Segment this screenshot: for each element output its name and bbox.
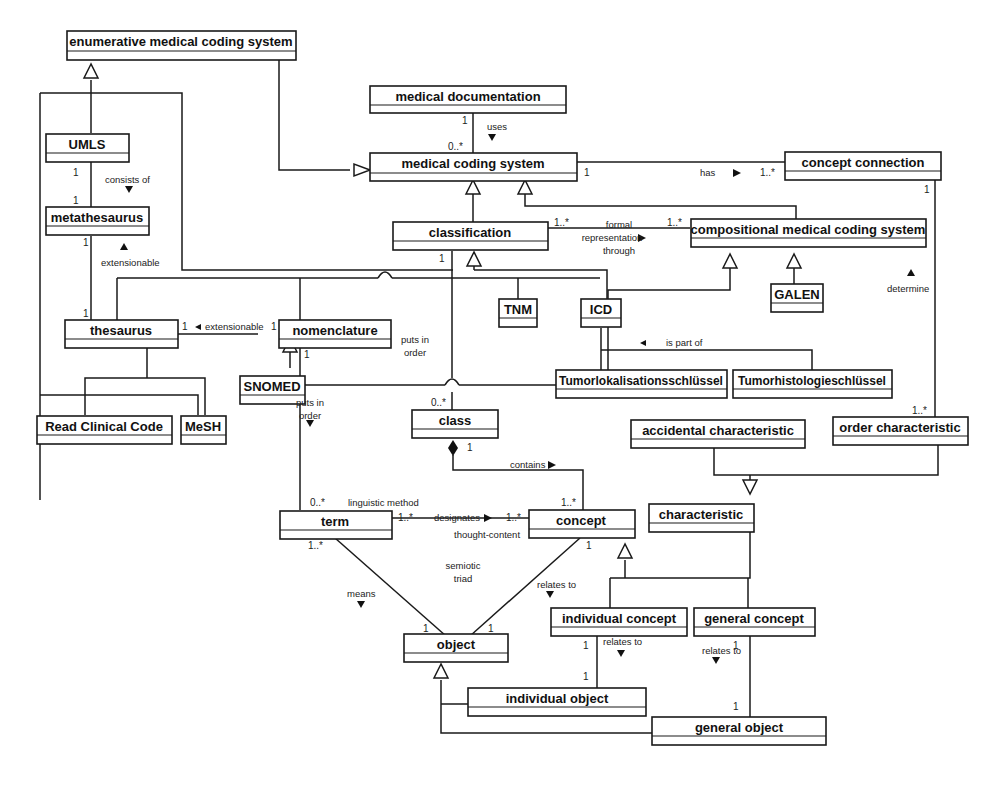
class-metathesaurus[interactable]: metathesaurus	[46, 207, 149, 235]
arrow-relates-ind	[617, 650, 625, 657]
label-contains: contains	[510, 459, 546, 470]
mult: 1..*	[561, 497, 576, 508]
mult: 1..*	[912, 405, 927, 416]
class-name: classification	[429, 225, 511, 240]
mult: 1	[584, 167, 590, 178]
arrow-is-part-of	[640, 340, 646, 346]
arrow-relates-gen	[712, 657, 720, 664]
class-medical-documentation[interactable]: medical documentation	[370, 86, 566, 113]
label-extensionable-meta: extensionable	[101, 257, 160, 268]
mult: 1..*	[667, 217, 682, 228]
edge-read-mesh-to-thesaurus	[85, 345, 205, 415]
class-enumerative[interactable]: enumerative medical coding system	[67, 31, 296, 60]
class-read-clinical-code[interactable]: Read Clinical Code	[37, 416, 172, 444]
class-compositional[interactable]: compositional medical coding system	[691, 219, 926, 247]
gen-arrow-mcs-compositional	[518, 180, 532, 194]
mult: 1..*	[554, 217, 569, 228]
label-extensionable-thes: extensionable	[205, 321, 264, 332]
arrow-has	[733, 169, 741, 177]
mult: 1	[83, 308, 89, 319]
arrow-extensionable-thes	[195, 324, 201, 330]
arrow-extensionable-meta	[120, 243, 128, 250]
class-name: general object	[695, 720, 784, 735]
label-uses: uses	[487, 121, 507, 132]
class-general-concept[interactable]: general concept	[694, 608, 815, 636]
mult: 1	[83, 237, 89, 248]
class-nomenclature[interactable]: nomenclature	[279, 320, 391, 348]
class-characteristic[interactable]: characteristic	[649, 504, 754, 532]
mult: 0..*	[448, 141, 463, 152]
arrow-contains	[548, 461, 556, 469]
class-concept[interactable]: concept	[529, 510, 635, 538]
class-classification[interactable]: classification	[393, 222, 548, 250]
class-name: metathesaurus	[51, 210, 143, 225]
label-representation: representation	[582, 232, 643, 243]
class-term[interactable]: term	[280, 511, 392, 539]
gen-arrow-classification	[467, 252, 481, 266]
label-consists-of: consists of	[105, 174, 150, 185]
class-tumorlokalisationsschluessel[interactable]: Tumorlokalisationsschlüssel	[556, 370, 727, 398]
class-name: general concept	[704, 611, 804, 626]
class-name: object	[437, 637, 476, 652]
edge-hop-2	[445, 379, 459, 385]
class-medical-coding-system[interactable]: medical coding system	[370, 153, 577, 181]
mult: 1	[439, 253, 445, 264]
class-general-object[interactable]: general object	[652, 717, 826, 745]
class-concept-connection[interactable]: concept connection	[785, 152, 941, 180]
gen-arrow-object	[434, 664, 448, 678]
label-determine: determine	[887, 283, 929, 294]
label-formal: formal	[606, 219, 632, 230]
class-name: concept connection	[802, 155, 925, 170]
arrow-relates-concept	[546, 591, 554, 598]
mult: 0..*	[310, 497, 325, 508]
class-name: nomenclature	[292, 323, 377, 338]
class-name: GALEN	[774, 287, 820, 302]
mult: 1	[73, 167, 79, 178]
edge-compositional-child-snomed-route	[527, 268, 730, 385]
class-name: order characteristic	[839, 420, 960, 435]
class-name: class	[439, 413, 472, 428]
mult: 1	[583, 671, 589, 682]
class-icd[interactable]: ICD	[581, 299, 621, 327]
arrow-puts-in-order-nom	[306, 420, 314, 427]
class-umls[interactable]: UMLS	[46, 134, 129, 162]
class-individual-concept[interactable]: individual concept	[551, 608, 687, 636]
class-name: Read Clinical Code	[45, 419, 163, 434]
class-name: compositional medical coding system	[691, 222, 926, 237]
mult: 1	[423, 623, 429, 634]
mult: 1	[586, 540, 592, 551]
class-name: individual object	[506, 691, 609, 706]
label-triad: triad	[454, 573, 472, 584]
class-class[interactable]: class	[412, 410, 498, 438]
composition-diamond	[448, 440, 458, 456]
mult: 1	[467, 442, 473, 453]
class-individual-object[interactable]: individual object	[468, 688, 646, 716]
label-order-nom: order	[299, 410, 321, 421]
label-order-class: order	[404, 347, 426, 358]
edge-icd-tumorhist	[601, 350, 812, 370]
class-name: concept	[556, 513, 607, 528]
class-galen[interactable]: GALEN	[771, 284, 823, 312]
gen-arrow-concept	[618, 544, 632, 558]
mult: 1	[488, 623, 494, 634]
arrow-means	[357, 601, 365, 608]
class-order-characteristic[interactable]: order characteristic	[833, 417, 968, 445]
class-tnm[interactable]: TNM	[499, 299, 537, 327]
edge-concept-children	[610, 560, 748, 608]
class-object[interactable]: object	[404, 634, 508, 662]
class-mesh[interactable]: MeSH	[181, 416, 226, 444]
class-accidental-characteristic[interactable]: accidental characteristic	[631, 420, 805, 448]
mult: 1..*	[760, 167, 775, 178]
mult: 1	[304, 349, 310, 360]
class-name: enumerative medical coding system	[69, 34, 292, 49]
gen-arrow-mcs-left	[354, 164, 370, 176]
mult: 1..*	[308, 540, 323, 551]
mult: 1	[733, 701, 739, 712]
class-thesaurus[interactable]: thesaurus	[65, 320, 178, 348]
class-name: medical documentation	[395, 89, 540, 104]
label-semiotic: semiotic	[446, 560, 481, 571]
gen-arrow-compositional-1	[723, 254, 737, 268]
class-name: characteristic	[659, 507, 744, 522]
class-tumorhistologieschluessel[interactable]: Tumorhistologieschlüssel	[733, 370, 892, 398]
class-name: medical coding system	[401, 156, 544, 171]
